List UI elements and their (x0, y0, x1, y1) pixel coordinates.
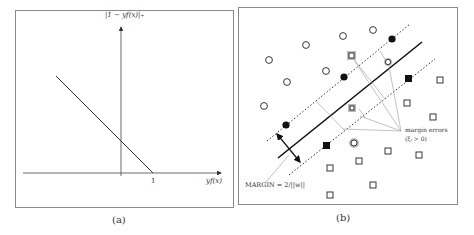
margin-arrow (277, 134, 300, 162)
margin-label: MARGIN = 2/||w|| (245, 181, 305, 189)
margin-label-leader (266, 155, 289, 182)
caption-b: (b) (336, 212, 350, 223)
margin-errors-condition: (ξᵢ > 0) (405, 135, 427, 142)
margin-error-leaders (343, 57, 401, 131)
svm-diagram (0, 0, 474, 235)
margin-errors-label: margin errors (405, 126, 448, 133)
